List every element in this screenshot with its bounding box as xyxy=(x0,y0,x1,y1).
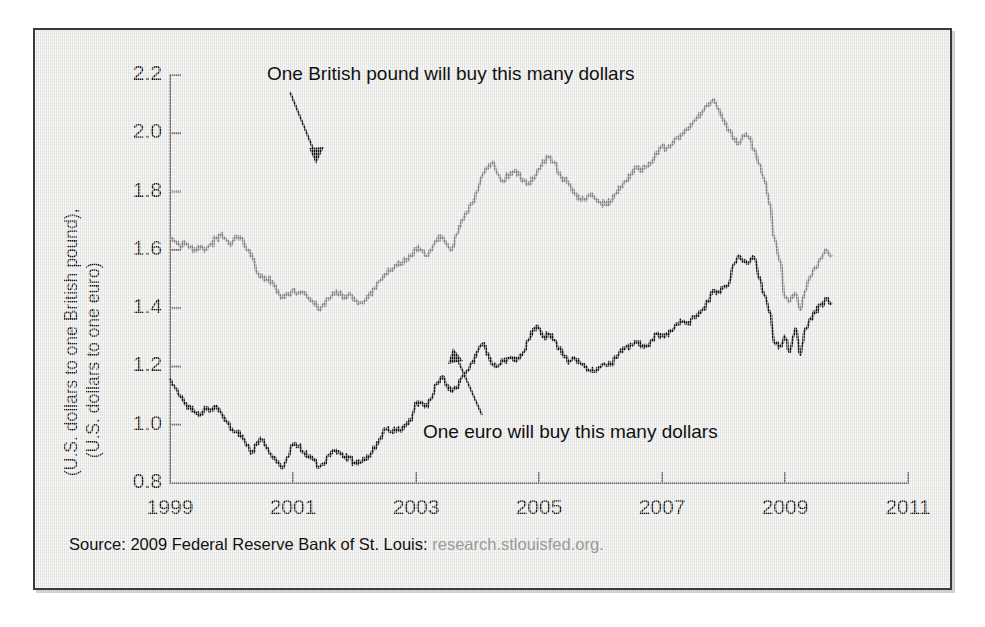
annotation-pound-label: One British pound will buy this many dol… xyxy=(267,63,635,85)
annotation-euro-label: One euro will buy this many dollars xyxy=(423,421,718,443)
chart-plot-area xyxy=(35,30,950,588)
chart-series-layer xyxy=(170,99,831,468)
series-line-pound xyxy=(170,99,831,310)
annotation-pound-text: One British pound will buy this many dol… xyxy=(267,63,635,84)
source-url[interactable]: research.stlouisfed.org xyxy=(432,535,599,553)
annotation-euro-text: One euro will buy this many dollars xyxy=(423,421,718,442)
arrow-pound xyxy=(290,92,324,164)
annotation-arrows xyxy=(290,92,482,415)
source-prefix: Source: 2009 Federal Reserve Bank of St.… xyxy=(69,535,428,553)
chart-figure: (U.S. dollars to one British pound), (U.… xyxy=(33,28,952,590)
arrow-euro xyxy=(448,348,482,415)
source-suffix: . xyxy=(599,535,604,553)
source-note: Source: 2009 Federal Reserve Bank of St.… xyxy=(69,535,604,554)
